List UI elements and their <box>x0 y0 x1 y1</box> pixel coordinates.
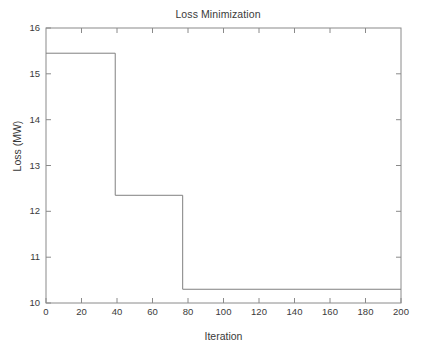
x-tick-label-120: 120 <box>244 306 274 317</box>
x-tick-label-60: 60 <box>138 306 168 317</box>
y-axis-label: Loss (MW) <box>11 106 23 186</box>
y-tick-label-12: 12 <box>12 205 40 216</box>
x-tick-label-200: 200 <box>386 306 416 317</box>
x-tick-label-20: 20 <box>67 306 97 317</box>
x-tick-label-180: 180 <box>351 306 381 317</box>
plot-frame <box>46 28 401 303</box>
y-tick-label-16: 16 <box>12 22 40 33</box>
x-axis-label: Iteration <box>46 330 401 342</box>
y-tick-marks <box>46 28 401 303</box>
x-tick-label-40: 40 <box>102 306 132 317</box>
y-tick-label-15: 15 <box>12 68 40 79</box>
loss-step-line <box>46 53 401 289</box>
y-tick-label-11: 11 <box>12 251 40 262</box>
x-tick-label-0: 0 <box>31 306 61 317</box>
x-tick-label-100: 100 <box>209 306 239 317</box>
x-tick-label-80: 80 <box>173 306 203 317</box>
chart-figure: Loss Minimization <box>0 0 436 360</box>
x-tick-label-140: 140 <box>280 306 310 317</box>
x-tick-label-160: 160 <box>315 306 345 317</box>
x-tick-marks <box>46 28 401 303</box>
